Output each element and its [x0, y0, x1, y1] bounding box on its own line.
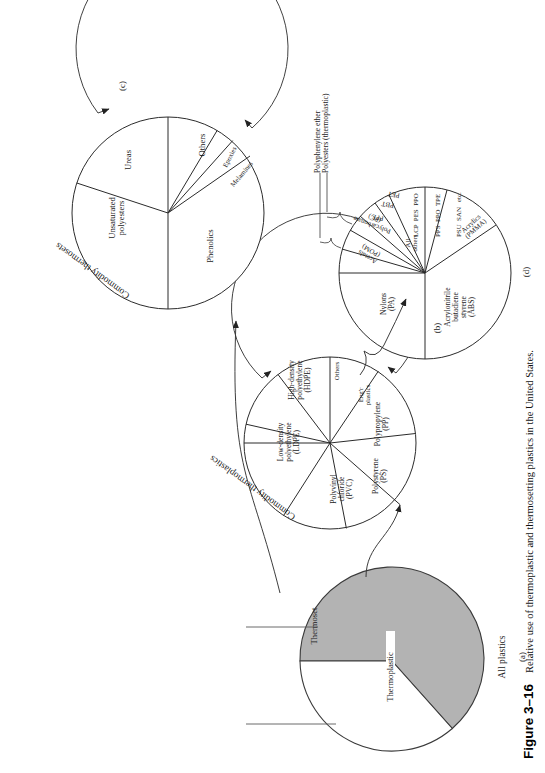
- figure-graphics: [0, 0, 545, 773]
- panel-a-pie: [246, 567, 484, 751]
- figure-caption-text: Relative use of thermoplastic and thermo…: [524, 350, 535, 673]
- figure-number: Figure 3–16: [521, 684, 536, 759]
- panel-d-pie: [339, 187, 511, 359]
- panel-c-pie: [72, 0, 288, 309]
- figure-page: Thermoplastic Thermoset All plastics (a)…: [0, 0, 545, 773]
- figure-caption-block: Figure 3–16 Relative use of thermoplasti…: [519, 14, 537, 759]
